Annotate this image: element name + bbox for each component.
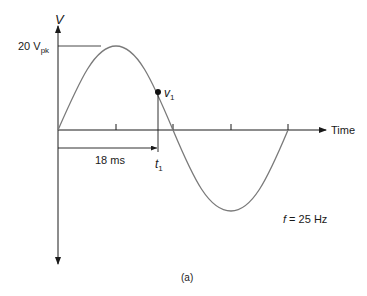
sine-waveform [58, 46, 288, 211]
x-axis-ticks [116, 124, 288, 130]
x-axis-label: Time [331, 124, 355, 136]
t1-label: t1 [155, 157, 163, 173]
peak-label: 20 Vpk [18, 40, 50, 55]
figure-caption: (a) [181, 272, 193, 283]
sine-wave-diagram: V 20 Vpk v1 Time 18 ms t1 f = 25 Hz (a) [0, 0, 367, 296]
v1-label: v1 [164, 86, 175, 102]
frequency-label: f = 25 Hz [283, 213, 327, 225]
interval-label: 18 ms [95, 154, 125, 166]
v1-point [155, 89, 161, 95]
y-axis-label: V [55, 12, 65, 27]
